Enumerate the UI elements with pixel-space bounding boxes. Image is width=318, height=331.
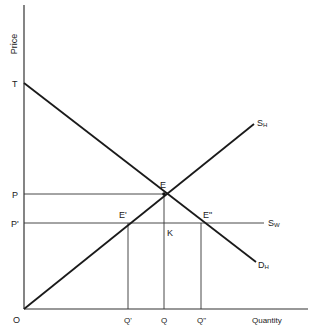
home-demand-curve — [24, 83, 256, 262]
curve-label-s-h: SH — [257, 118, 267, 128]
supply-demand-diagram: Price Quantity O T P P' E E' E" K SH SW … — [0, 0, 318, 331]
price-label-p: P — [12, 190, 18, 200]
equilibrium-point-e — [162, 192, 166, 196]
x-axis-label: Quantity — [252, 316, 282, 325]
point-label-e-prime: E' — [119, 210, 127, 220]
home-supply-curve — [24, 124, 254, 309]
price-label-t: T — [12, 79, 18, 89]
origin-label: O — [13, 315, 20, 325]
curve-label-s-w: SW — [268, 218, 280, 228]
quantity-label-q: Q — [161, 316, 167, 325]
point-label-e-double-prime: E" — [203, 210, 212, 220]
point-label-k: K — [167, 228, 173, 238]
quantity-label-q-prime: Q' — [124, 316, 132, 325]
price-label-p-prime: P' — [11, 219, 19, 229]
y-axis-label: Price — [9, 34, 19, 55]
point-label-e: E — [160, 180, 166, 190]
quantity-label-q-double-prime: Q" — [197, 316, 206, 325]
curve-label-d-h: DH — [258, 260, 269, 270]
